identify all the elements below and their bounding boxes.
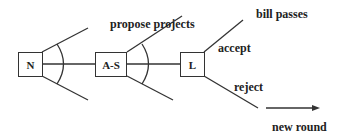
n-branch-top [42,28,88,52]
arrow-head-icon [312,105,320,111]
as-branch-bottom [127,76,173,100]
label-reject: reject [234,81,263,93]
node-l: L [180,52,205,77]
node-as: A-S [95,52,127,77]
label-propose-projects: propose projects [110,18,195,30]
n-branch-bottom [42,76,88,100]
label-new-round: new round [272,121,327,133]
label-bill-passes: bill passes [256,8,308,20]
label-accept: accept [218,42,251,54]
node-n: N [18,52,43,77]
